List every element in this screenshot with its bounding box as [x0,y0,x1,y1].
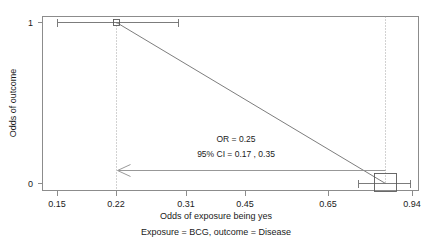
plot-frame [43,17,419,191]
outcome-yes-point-group [58,19,179,27]
y-tick-label-1: 1 [28,18,33,28]
x-tick-label-2: 0.31 [177,199,195,209]
odds-ratio-plot: 0.15 0.22 0.31 0.45 0.65 0.94 1 0 Odds o… [0,0,433,243]
x-tick-label-4: 0.65 [319,199,337,209]
plot-subtitle: Exposure = BCG, outcome = Disease [141,227,291,237]
odds-connector-line [117,23,386,184]
x-tick-label-5: 0.94 [403,199,421,209]
x-axis-title: Odds of exposure being yes [160,211,273,221]
y-axis-title: Odds of outcome [8,69,18,138]
confidence-interval-annotation: 95% CI = 0.17 , 0.35 [197,149,275,159]
y-tick-label-0: 0 [28,179,33,189]
y-axis-ticks [38,23,43,184]
odds-ratio-arrow [118,165,386,177]
x-tick-label-1: 0.22 [107,199,125,209]
x-tick-label-3: 0.45 [236,199,254,209]
x-axis-ticks [58,191,413,196]
odds-ratio-annotation: OR = 0.25 [217,134,256,144]
x-tick-label-0: 0.15 [48,199,66,209]
